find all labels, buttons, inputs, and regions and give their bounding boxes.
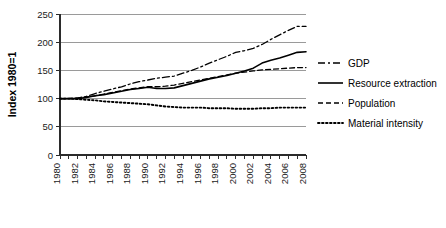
legend-label-3: Material intensity [348, 118, 423, 129]
chart-figure: 050100150200250 198019821984198619881990… [0, 0, 446, 228]
y-tick-label: 0 [48, 150, 53, 161]
y-axis-title: Index 1980=1 [6, 52, 18, 118]
x-tick-label: 1988 [121, 163, 132, 184]
y-tick-label: 200 [37, 37, 53, 48]
y-tick-label: 150 [37, 65, 53, 76]
x-tick-label: 1982 [69, 163, 80, 184]
x-tick-label: 2002 [244, 163, 255, 184]
y-tick-label: 50 [42, 121, 53, 132]
x-tick-label: 2006 [279, 163, 290, 184]
legend-label-2: Population [348, 98, 395, 109]
x-tick-label: 1996 [192, 163, 203, 184]
x-tick-label: 1986 [104, 163, 115, 184]
x-tick-label: 1998 [209, 163, 220, 184]
legend-label-1: Resource extraction [348, 78, 437, 89]
x-tick-label: 2004 [262, 163, 273, 184]
legend-label-0: GDP [348, 58, 370, 69]
x-tick-label: 2000 [227, 163, 238, 184]
y-tick-label: 250 [37, 9, 53, 20]
y-tick-label: 100 [37, 93, 53, 104]
x-tick-label: 1984 [86, 163, 97, 184]
x-tick-label: 1990 [139, 163, 150, 184]
x-tick-label: 1994 [174, 163, 185, 184]
x-tick-label: 1992 [156, 163, 167, 184]
line-chart: 050100150200250 198019821984198619881990… [0, 0, 446, 228]
x-tick-label: 1980 [51, 163, 62, 184]
x-tick-label: 2008 [297, 163, 308, 184]
plot-background [0, 0, 446, 228]
